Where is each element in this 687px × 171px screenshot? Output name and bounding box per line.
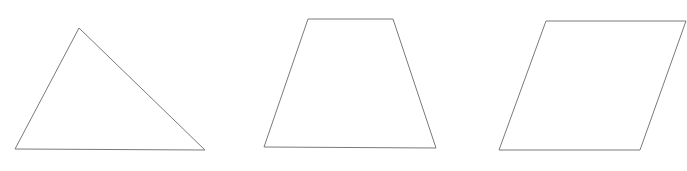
shapes-figure [0, 0, 687, 171]
trapezoid-shape [264, 19, 436, 148]
triangle-shape [15, 28, 205, 150]
parallelogram-shape [499, 21, 686, 150]
shapes-svg-canvas [0, 0, 687, 171]
